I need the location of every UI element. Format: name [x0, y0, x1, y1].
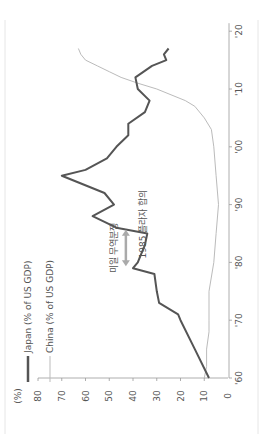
value-tick-label: 0 — [223, 393, 233, 399]
year-tick-label: '90 — [234, 197, 244, 211]
year-axis: '60'70'80'90'00'10'20 — [229, 23, 244, 385]
arrow-head-icon — [122, 260, 130, 266]
year-tick-label: '70 — [234, 313, 244, 327]
year-tick-label: '00 — [234, 140, 244, 154]
value-tick-label: 60 — [81, 390, 91, 402]
value-tick-label: 40 — [128, 390, 138, 402]
value-tick-label: 80 — [33, 390, 43, 402]
value-tick-label: 30 — [152, 390, 162, 402]
plaza-accord-label: 1985 플라자 합의 — [138, 190, 148, 259]
legend-china-label: China (% of US GDP) — [45, 260, 55, 353]
year-tick-label: '60 — [234, 371, 244, 385]
value-tick-label: 70 — [57, 390, 67, 402]
year-tick-label: '20 — [234, 24, 244, 38]
value-tick-label: 20 — [176, 390, 186, 402]
japan-line — [62, 49, 209, 379]
year-tick-label: '80 — [234, 255, 244, 269]
value-axis: 01020304050607080 — [33, 378, 233, 402]
value-tick-label: 10 — [199, 390, 209, 402]
unit-label: (%) — [13, 388, 23, 404]
trade-dispute-label: 미일 무역분쟁 — [109, 223, 119, 274]
year-tick-label: '10 — [234, 82, 244, 96]
legend: Japan (% of US GDP) China (% of US GDP) — [23, 260, 55, 382]
value-tick-label: 50 — [104, 390, 114, 402]
chart-canvas: 01020304050607080 '60'70'80'90'00'10'20 … — [0, 0, 265, 434]
legend-japan-label: Japan (% of US GDP) — [23, 261, 33, 354]
